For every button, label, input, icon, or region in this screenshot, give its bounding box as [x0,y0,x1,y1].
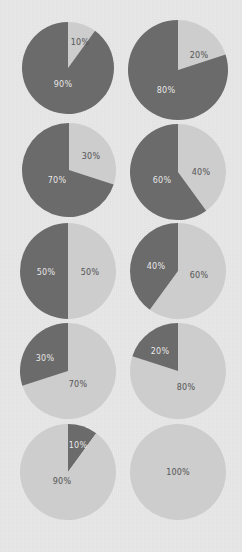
pie-svg [130,124,226,220]
pie-svg [20,323,116,419]
pie-svg [130,223,226,319]
pie-slice-label-light: 40% [192,168,210,177]
pie-slice-label-dark: 80% [157,86,175,95]
pie-chart-5 [20,223,116,319]
pie-slice-label-dark: 60% [153,176,171,185]
pie-slice-dark [22,22,114,114]
pie-slice-label-light: 60% [190,271,208,280]
pie-chart-6 [130,223,226,319]
pie-chart-1 [22,22,114,114]
pie-slice-label-light: 20% [190,51,208,60]
pie-chart-7 [20,323,116,419]
pie-slice-label-dark: 30% [36,354,54,363]
pie-slice-label-dark: 90% [54,80,72,89]
pie-svg [22,22,114,114]
pie-slice-label-dark: 70% [48,176,66,185]
pie-svg [130,323,226,419]
pie-slice-label-dark: 10% [69,441,87,450]
pie-slice-label-dark: 50% [37,268,55,277]
pie-svg [22,123,116,217]
pie-slice-label-light: 100% [166,468,190,477]
pie-svg [20,424,116,520]
pie-chart-2 [128,20,228,120]
pie-slice-light [20,424,116,520]
pie-svg [128,20,228,120]
pie-slice-label-light: 50% [81,268,99,277]
pie-chart-4 [130,124,226,220]
pie-svg [20,223,116,319]
pie-slice-label-light: 90% [53,477,71,486]
pie-slice-label-dark: 20% [151,347,169,356]
pie-chart-8 [130,323,226,419]
pie-slice-label-light: 10% [71,38,89,47]
pie-slice-label-light: 70% [69,380,87,389]
pie-slice-label-dark: 40% [147,262,165,271]
pie-chart-grid: 10%90%20%80%30%70%40%60%50%50%60%40%70%3… [0,0,242,552]
pie-chart-9 [20,424,116,520]
pie-chart-3 [22,123,116,217]
pie-slice-label-light: 80% [177,383,195,392]
pie-slice-label-light: 30% [82,152,100,161]
